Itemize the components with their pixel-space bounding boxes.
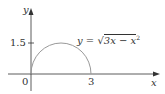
function-label: y = √3x − x2 [77, 35, 140, 46]
eq-body: 3x − x [104, 34, 136, 46]
x-axis-arrow-icon [153, 72, 160, 77]
eq-prefix: y = [77, 35, 97, 46]
y-axis-arrow-icon [29, 8, 34, 15]
y-axis-label: y [23, 5, 29, 15]
y-tick-label-1-5: 1.5 [10, 38, 26, 48]
x-axis-label: x [151, 78, 157, 88]
eq-exponent: 2 [136, 34, 140, 41]
sqrt-icon: √ [97, 35, 103, 46]
curve-sqrt-3x-minus-x2 [31, 43, 91, 74]
origin-label: 0 [22, 77, 28, 87]
x-tick-label-3: 3 [88, 77, 94, 87]
